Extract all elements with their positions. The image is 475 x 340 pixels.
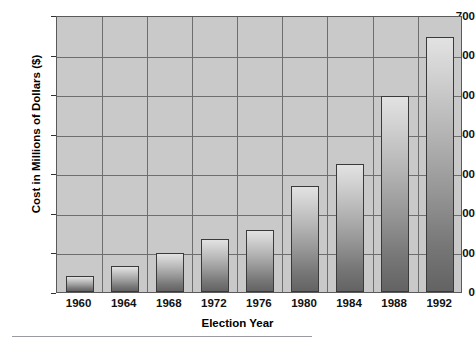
bar-1992: [426, 37, 454, 292]
gridline-horizontal: [57, 57, 461, 58]
footer-divider: [12, 336, 312, 337]
gridline-vertical: [192, 17, 193, 292]
gridline-vertical: [418, 17, 419, 292]
x-axis-title: Election Year: [0, 317, 475, 329]
gridline-vertical: [282, 17, 283, 292]
y-axis-title: Cost in Millions of Dollars ($): [30, 4, 42, 264]
bar-1976: [246, 230, 274, 292]
gridline-vertical: [147, 17, 148, 292]
bar-1964: [111, 266, 139, 292]
bar-1980: [291, 186, 319, 292]
bar-1972: [201, 239, 229, 292]
gridline-vertical: [237, 17, 238, 292]
x-tick-label: 1992: [409, 297, 469, 309]
bar-1960: [66, 276, 94, 292]
plot-area: [56, 16, 462, 293]
y-tick-mark: [51, 293, 56, 294]
gridline-vertical: [327, 17, 328, 292]
bar-1988: [381, 96, 409, 292]
gridline-vertical: [373, 17, 374, 292]
bar-chart-figure: 700 600 500 400 300 200 100 0 Cost in Mi…: [0, 0, 475, 340]
bar-1984: [336, 164, 364, 292]
gridline-vertical: [102, 17, 103, 292]
bar-1968: [156, 253, 184, 292]
